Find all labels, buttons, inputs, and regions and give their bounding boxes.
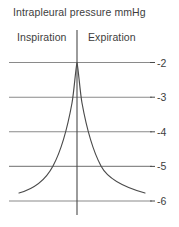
- tick-label-minus-2: -2: [157, 57, 166, 69]
- tick-label-minus-3: -3: [157, 91, 166, 103]
- tick-label-minus-5: -5: [157, 160, 166, 172]
- pressure-curve: [19, 63, 145, 194]
- plot-area: [0, 0, 179, 227]
- chart-figure: Intrapleural pressure mmHg Inspiration E…: [0, 0, 179, 227]
- tick-label-minus-6: -6: [157, 195, 166, 207]
- tick-label-minus-4: -4: [157, 126, 166, 138]
- gridlines: [9, 63, 152, 202]
- tick-marks: [150, 63, 155, 202]
